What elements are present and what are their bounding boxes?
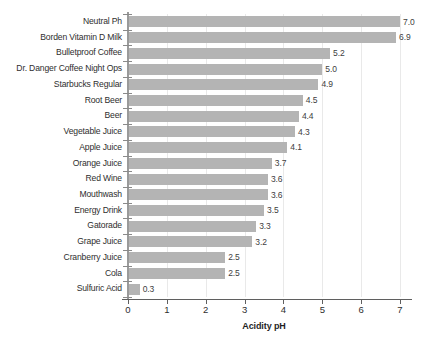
category-label: Cranberry Juice: [64, 250, 122, 266]
category-label: Vegetable Juice: [64, 124, 122, 140]
bar-value-label: 0.3: [140, 285, 155, 294]
bar: [128, 174, 268, 185]
category-axis-labels: Neutral PhBorden Vitamin D MilkBulletpro…: [0, 14, 122, 297]
y-axis-tick: [123, 124, 132, 125]
x-axis-tick-label: 1: [164, 305, 169, 315]
bar-row: 3.2: [128, 234, 400, 250]
x-axis-title: Acidity pH: [128, 321, 400, 331]
acidity-ph-bar-chart: 7.06.95.25.04.94.54.44.34.13.73.63.63.53…: [0, 0, 439, 344]
y-axis-tick: [123, 61, 132, 62]
y-axis-tick: [123, 281, 132, 282]
bar: [128, 126, 295, 137]
y-axis-tick: [123, 93, 132, 94]
x-axis-tick-label: 6: [358, 305, 363, 315]
y-axis-tick: [123, 266, 132, 267]
y-axis-tick: [123, 108, 132, 109]
category-label: Starbucks Regular: [54, 77, 122, 93]
bar: [128, 158, 272, 169]
plot-area: 7.06.95.25.04.94.54.44.34.13.73.63.63.53…: [128, 14, 400, 297]
bar-row: 2.5: [128, 250, 400, 266]
bar-row: 4.9: [128, 77, 400, 93]
category-label: Neutral Ph: [83, 14, 122, 30]
y-axis-tick: [123, 156, 132, 157]
bar-value-label: 3.3: [256, 222, 271, 231]
category-label: Dr. Danger Coffee Night Ops: [16, 61, 122, 77]
x-axis-tick-label: 2: [203, 305, 208, 315]
bar-value-label: 2.5: [225, 269, 240, 278]
bar-value-label: 7.0: [400, 18, 415, 27]
bar-row: 2.5: [128, 266, 400, 282]
x-axis-tick-label: 4: [281, 305, 286, 315]
bar: [128, 252, 225, 263]
category-label: Apple Juice: [79, 140, 122, 156]
bar-row: 3.6: [128, 187, 400, 203]
x-axis-tick-label: 5: [320, 305, 325, 315]
x-axis-tick-labels: 01234567: [128, 305, 400, 319]
category-label: Red Wine: [85, 171, 122, 187]
category-label: Bulletproof Coffee: [56, 45, 122, 61]
bar-row: 3.5: [128, 203, 400, 219]
category-label: Orange Juice: [73, 156, 122, 172]
gridline-7: [400, 14, 401, 297]
category-label: Borden Vitamin D Milk: [40, 30, 122, 46]
bar: [128, 142, 287, 153]
bar-row: 4.1: [128, 140, 400, 156]
x-axis-tick-label: 7: [397, 305, 402, 315]
bar: [128, 221, 256, 232]
y-axis-tick: [123, 14, 132, 15]
category-label: Grape Juice: [77, 234, 122, 250]
category-label: Cola: [105, 266, 122, 282]
y-axis-tick: [123, 203, 132, 204]
y-axis-tick: [123, 77, 132, 78]
y-axis-ticks: [123, 14, 133, 297]
x-axis-tick-label: 0: [125, 305, 130, 315]
category-label: Energy Drink: [74, 203, 122, 219]
bar-value-label: 4.5: [303, 96, 318, 105]
category-label: Sulfuric Acid: [77, 281, 122, 297]
category-label: Gatorade: [87, 218, 122, 234]
y-axis-tick: [123, 250, 132, 251]
y-axis-tick: [123, 45, 132, 46]
y-axis-tick: [123, 187, 132, 188]
bar-value-label: 4.3: [295, 128, 310, 137]
category-label: Mouthwash: [79, 187, 122, 203]
bar-row: 5.2: [128, 45, 400, 61]
bar-row: 3.3: [128, 218, 400, 234]
y-axis-tick: [123, 218, 132, 219]
bar-value-label: 4.4: [299, 112, 314, 121]
bar: [128, 189, 268, 200]
bar: [128, 205, 264, 216]
bar: [128, 79, 318, 90]
bar-value-label: 5.0: [322, 65, 337, 74]
bar-value-label: 4.1: [287, 143, 302, 152]
y-axis-tick: [123, 297, 132, 298]
bar: [128, 48, 330, 59]
bar-value-label: 3.7: [272, 159, 287, 168]
y-axis-tick: [123, 140, 132, 141]
y-axis-tick: [123, 234, 132, 235]
bar-value-label: 5.2: [330, 49, 345, 58]
bar-row: 3.6: [128, 171, 400, 187]
bar-row: 0.3: [128, 281, 400, 297]
bar: [128, 16, 400, 27]
bar: [128, 95, 303, 106]
category-label: Beer: [104, 108, 122, 124]
bar-row: 4.3: [128, 124, 400, 140]
bar-row: 7.0: [128, 14, 400, 30]
x-axis-tick-label: 3: [242, 305, 247, 315]
bar-value-label: 3.6: [268, 175, 283, 184]
bar: [128, 268, 225, 279]
bar: [128, 111, 299, 122]
bar-rows: 7.06.95.25.04.94.54.44.34.13.73.63.63.53…: [128, 14, 400, 297]
bar: [128, 64, 322, 75]
bar-value-label: 3.5: [264, 206, 279, 215]
category-label: Root Beer: [85, 93, 122, 109]
y-axis-tick: [123, 30, 132, 31]
bar-row: 5.0: [128, 61, 400, 77]
bar-row: 3.7: [128, 156, 400, 172]
bar: [128, 236, 252, 247]
bar-row: 6.9: [128, 30, 400, 46]
bar-value-label: 3.2: [252, 238, 267, 247]
y-axis-tick: [123, 171, 132, 172]
bar-value-label: 4.9: [318, 80, 333, 89]
